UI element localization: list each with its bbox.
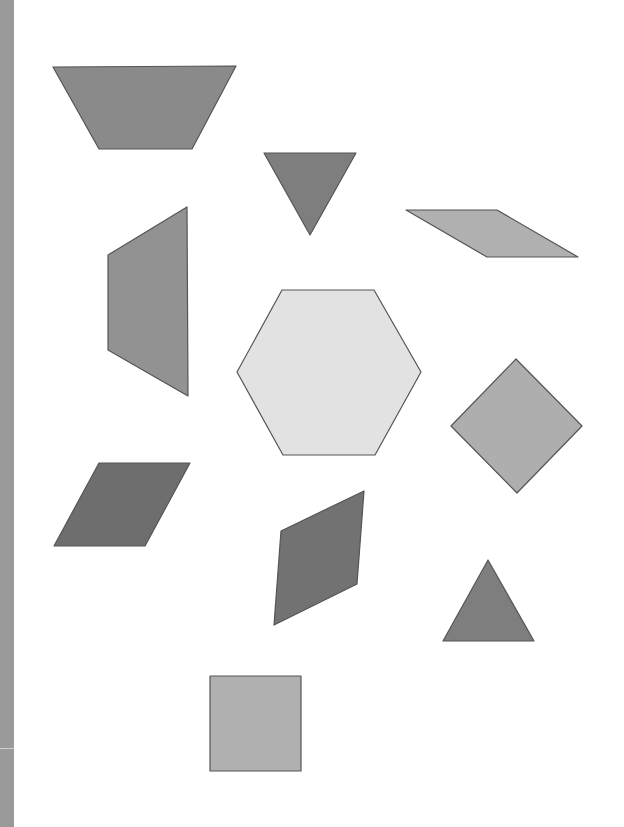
shape-rhombus-center[interactable] [274, 491, 364, 625]
shape-hexagon[interactable] [237, 290, 421, 455]
shape-trapezoid-top-left[interactable] [53, 66, 236, 149]
shape-trapezoid-vertical[interactable] [108, 207, 188, 396]
shape-square-bottom[interactable] [210, 676, 301, 771]
shape-thin-rhombus[interactable] [406, 210, 578, 257]
shape-triangle-up[interactable] [443, 560, 534, 641]
shape-diamond-square[interactable] [451, 359, 582, 493]
shapes-canvas [0, 0, 624, 827]
shape-rhombus-left[interactable] [54, 463, 190, 546]
shape-triangle-down[interactable] [264, 153, 356, 235]
